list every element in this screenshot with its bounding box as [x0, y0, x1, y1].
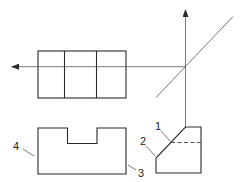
- leader-3: [128, 165, 136, 170]
- side-view: [156, 127, 201, 173]
- projection-lines: [12, 10, 233, 127]
- label-3: 3: [138, 167, 144, 179]
- top-view: [38, 51, 126, 98]
- leader-1: [161, 131, 171, 142]
- front-view-outline: [38, 128, 126, 174]
- label-2: 2: [140, 135, 146, 147]
- leader-4: [23, 149, 34, 156]
- miter-line: [156, 17, 233, 98]
- leader-2: [146, 146, 155, 156]
- label-4: 4: [13, 140, 19, 152]
- label-1: 1: [155, 120, 161, 132]
- side-view-outline: [156, 127, 201, 173]
- projection-diagram: 1 2 3 4: [0, 0, 243, 182]
- top-view-outline: [38, 51, 126, 98]
